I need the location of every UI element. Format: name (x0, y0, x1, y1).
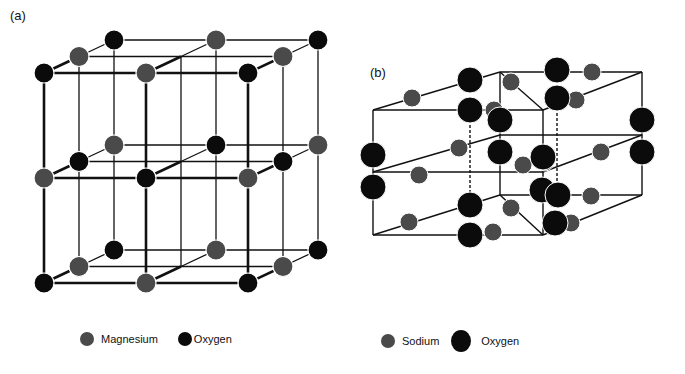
legend-b: Sodium Oxygen (381, 330, 519, 352)
oxygen-legend-icon (451, 330, 471, 352)
oxygen-atom (544, 57, 570, 83)
legend-sodium: Sodium (402, 335, 439, 347)
oxygen-atom (457, 97, 483, 123)
magnesium-atom (34, 168, 54, 188)
oxygen-atom (238, 273, 258, 293)
sodium-atom (583, 63, 601, 81)
magnesium-atom (206, 30, 226, 50)
legend-oxygen-b: Oxygen (481, 335, 519, 347)
panel-a-label: (a) (10, 8, 26, 23)
sodium-atom (400, 213, 418, 231)
oxygen-atom (457, 192, 483, 218)
oxygen-atom (308, 240, 328, 260)
oxygen-atom (206, 135, 226, 155)
oxygen-atom (457, 222, 483, 248)
oxygen-atom (308, 30, 328, 50)
panel-b-label: (b) (370, 65, 386, 80)
oxygen-atom (34, 273, 54, 293)
magnesium-atom (206, 240, 226, 260)
oxygen-atom (487, 107, 513, 133)
sodium-atom (592, 143, 610, 161)
magnesium-atom (308, 135, 328, 155)
oxygen-atom (542, 210, 568, 236)
oxygen-atom (273, 152, 293, 172)
oxygen-atom (34, 63, 54, 83)
oxygen-atom (530, 144, 556, 170)
sodium-atom (403, 89, 421, 107)
sodium-atom (410, 166, 428, 184)
magnesium-atom (136, 63, 156, 83)
magnesium-atom (104, 135, 124, 155)
magnesium-atom (238, 168, 258, 188)
crystal-structures-figure (0, 0, 685, 374)
legend-a: Magnesium Oxygen (80, 332, 232, 346)
magnesium-atom (69, 257, 89, 277)
oxygen-atom (69, 152, 89, 172)
mgo-lattice (34, 30, 328, 293)
magnesium-atom (69, 47, 89, 67)
magnesium-atom (136, 273, 156, 293)
legend-magnesium: Magnesium (101, 333, 158, 345)
sodium-legend-icon (381, 334, 395, 348)
oxygen-atom (360, 174, 386, 200)
sodium-atom (502, 199, 520, 217)
oxygen-atom (238, 63, 258, 83)
oxygen-atom (544, 85, 570, 111)
legend-oxygen: Oxygen (194, 333, 232, 345)
oxygen-atom (360, 142, 386, 168)
oxygen-atom (629, 139, 655, 165)
sodium-atom (484, 223, 502, 241)
oxygen-atom (487, 139, 513, 165)
oxygen-atom (629, 107, 655, 133)
magnesium-legend-icon (80, 332, 94, 346)
sodium-atom (514, 156, 532, 174)
oxygen-legend-icon (178, 332, 192, 346)
oxygen-atom (545, 182, 571, 208)
magnesium-atom (273, 47, 293, 67)
sodium-atom (582, 187, 600, 205)
magnesium-atom (273, 257, 293, 277)
na2o2-lattice (360, 57, 655, 248)
oxygen-atom (457, 67, 483, 93)
oxygen-atom (104, 240, 124, 260)
oxygen-atom (136, 168, 156, 188)
sodium-atom (450, 139, 468, 157)
oxygen-atom (104, 30, 124, 50)
sodium-atom (502, 73, 520, 91)
